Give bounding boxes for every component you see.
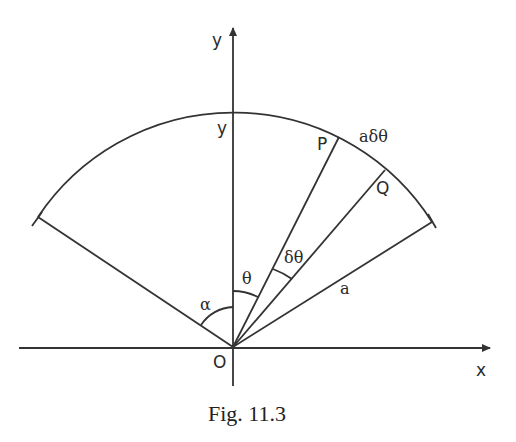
sector-diagram: y x O y P Q aδθ a θ δθ α Fig. 11.3 xyxy=(0,0,516,442)
radius-right xyxy=(233,222,432,347)
alpha-label: α xyxy=(200,295,211,314)
arc-top-label: y xyxy=(217,118,227,138)
point-Q-label: Q xyxy=(376,178,389,198)
angle-arc-delta-theta xyxy=(273,269,292,279)
y-axis-label: y xyxy=(212,30,222,50)
x-axis-label: x xyxy=(476,360,486,380)
radius-left xyxy=(38,217,233,347)
arc-length-label: aδθ xyxy=(359,127,388,146)
figure-caption: Fig. 11.3 xyxy=(208,401,286,426)
delta-theta-label: δθ xyxy=(284,248,303,267)
arc-end-tick-right xyxy=(428,214,436,228)
radius-a-label: a xyxy=(340,279,350,298)
point-P-label: P xyxy=(317,134,327,154)
origin-label: O xyxy=(213,352,226,372)
theta-label: θ xyxy=(242,269,252,288)
angle-arc-theta xyxy=(233,291,258,297)
